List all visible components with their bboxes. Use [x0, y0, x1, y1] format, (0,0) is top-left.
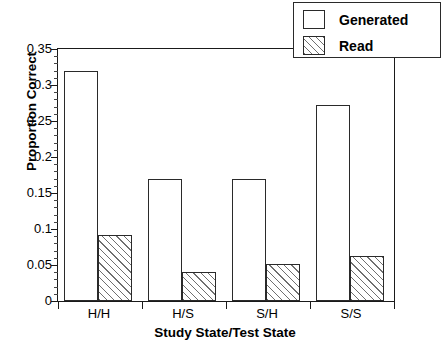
- y-axis-tick-label: 0.15: [2, 185, 52, 200]
- y-axis-minor-tick: [54, 114, 58, 115]
- y-axis-minor-tick: [54, 243, 58, 244]
- y-axis-major-tick: [51, 85, 58, 86]
- y-axis-minor-tick: [54, 171, 58, 172]
- y-axis-minor-tick: [54, 236, 58, 237]
- y-axis-major-tick: [51, 49, 58, 50]
- y-axis-minor-tick: [54, 107, 58, 108]
- x-axis-group-tick: [310, 301, 311, 309]
- y-axis-tick-label: 0: [2, 293, 52, 308]
- y-axis-minor-tick: [54, 63, 58, 64]
- y-axis-tick-label: 0.3: [2, 77, 52, 92]
- y-axis-minor-tick: [54, 135, 58, 136]
- bar-H-S-read: [182, 272, 216, 301]
- y-axis-minor-tick: [54, 78, 58, 79]
- bar-H-H-generated: [64, 71, 98, 301]
- y-axis-minor-tick: [54, 71, 58, 72]
- y-axis-minor-tick: [54, 215, 58, 216]
- x-axis-boundary-tick: [394, 301, 395, 309]
- y-axis-major-tick: [51, 193, 58, 194]
- y-axis-minor-tick: [54, 128, 58, 129]
- legend-item-read[interactable]: Read: [303, 34, 440, 57]
- y-axis-tick-label: 0.35: [2, 41, 52, 56]
- bar-S-H-generated: [232, 179, 266, 301]
- y-axis-minor-tick: [54, 207, 58, 208]
- x-axis-group-tick: [142, 301, 143, 309]
- y-axis-tick-label: 0.2: [2, 149, 52, 164]
- bar-S-S-generated: [316, 105, 350, 301]
- y-axis-tick-labels: 00.050.10.150.20.250.30.35: [0, 0, 52, 348]
- y-axis-minor-tick: [54, 294, 58, 295]
- y-axis-minor-tick: [54, 143, 58, 144]
- y-axis-minor-tick: [54, 179, 58, 180]
- y-axis-tick-label: 0.05: [2, 257, 52, 272]
- y-axis-minor-tick: [54, 99, 58, 100]
- x-axis-title: Study State/Test State: [57, 325, 393, 340]
- x-axis-group-tick: [226, 301, 227, 309]
- y-axis-major-tick: [51, 301, 58, 302]
- bar-H-H-read: [98, 235, 132, 301]
- y-axis-major-tick: [51, 229, 58, 230]
- x-axis-tick-label: S/S: [341, 306, 362, 321]
- x-axis-tick-label: S/H: [256, 306, 278, 321]
- y-axis-minor-tick: [54, 287, 58, 288]
- y-axis-minor-tick: [54, 92, 58, 93]
- legend-item-label: Read: [339, 38, 373, 54]
- legend-item-label: Generated: [339, 12, 408, 28]
- empty-box-swatch: [303, 10, 325, 29]
- y-axis-minor-tick: [54, 200, 58, 201]
- y-axis-minor-tick: [54, 272, 58, 273]
- y-axis-minor-tick: [54, 150, 58, 151]
- plot-area: [57, 48, 395, 302]
- y-axis-tick-label: 0.1: [2, 221, 52, 236]
- x-axis-tick-label: H/H: [88, 306, 110, 321]
- y-axis-minor-tick: [54, 222, 58, 223]
- hatched-box-swatch: [303, 36, 325, 55]
- y-axis-minor-tick: [54, 164, 58, 165]
- bar-S-H-read: [266, 264, 300, 301]
- y-axis-major-tick: [51, 121, 58, 122]
- y-axis-minor-tick: [54, 258, 58, 259]
- chart-legend: GeneratedRead: [293, 2, 441, 58]
- y-axis-minor-tick: [54, 186, 58, 187]
- x-axis-boundary-tick: [58, 301, 59, 309]
- x-axis-tick-label: H/S: [172, 306, 194, 321]
- y-axis-minor-tick: [54, 251, 58, 252]
- y-axis-major-tick: [51, 157, 58, 158]
- y-axis-minor-tick: [54, 279, 58, 280]
- legend-item-generated[interactable]: Generated: [303, 8, 440, 31]
- bar-S-S-read: [350, 256, 384, 301]
- y-axis-major-tick: [51, 265, 58, 266]
- bar-H-S-generated: [148, 179, 182, 301]
- y-axis-minor-tick: [54, 56, 58, 57]
- y-axis-tick-label: 0.25: [2, 113, 52, 128]
